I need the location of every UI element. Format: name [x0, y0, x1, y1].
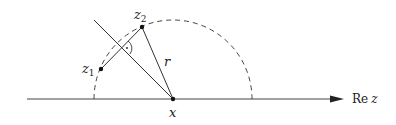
- label-z2: z2: [133, 7, 147, 24]
- label-x: x: [169, 105, 177, 120]
- point-z1: [99, 67, 103, 71]
- diagram-svg: z1 z2 r x Rez: [0, 0, 396, 125]
- dashed-semicircle: [94, 20, 252, 99]
- right-angle-arc: [128, 41, 132, 54]
- perpendicular-bisector: [94, 20, 173, 99]
- label-r: r: [164, 54, 171, 69]
- label-z1: z1: [81, 61, 95, 78]
- axis-arrow-icon: [330, 96, 344, 103]
- point-x: [171, 97, 175, 101]
- right-angle-dot: [126, 47, 128, 49]
- diagram-canvas: z1 z2 r x Rez: [0, 0, 396, 125]
- label-axis-re: Rez: [352, 92, 378, 106]
- point-z2: [140, 25, 144, 29]
